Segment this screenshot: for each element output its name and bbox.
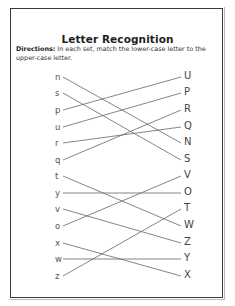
uppercase-letter[interactable]: Z [184, 237, 191, 247]
uppercase-letter[interactable]: O [184, 187, 192, 197]
uppercase-letter[interactable]: R [184, 104, 191, 114]
uppercase-letter[interactable]: X [184, 270, 191, 280]
uppercase-letter[interactable]: P [184, 87, 190, 97]
uppercase-letter[interactable]: W [184, 220, 194, 230]
lowercase-letter[interactable]: s [55, 88, 59, 98]
lowercase-letter[interactable]: o [55, 221, 60, 231]
uppercase-letter[interactable]: Q [184, 121, 192, 131]
lowercase-letter[interactable]: q [55, 155, 60, 165]
match-line[interactable] [63, 77, 181, 110]
lowercase-letter[interactable]: w [55, 254, 62, 264]
uppercase-letter[interactable]: U [184, 71, 191, 81]
lowercase-letter[interactable]: y [55, 188, 60, 198]
uppercase-letter[interactable]: S [184, 154, 190, 164]
match-line[interactable] [63, 243, 181, 276]
lowercase-letter[interactable]: v [55, 204, 60, 214]
lowercase-letter[interactable]: p [55, 105, 60, 115]
lowercase-letter[interactable]: x [55, 238, 60, 248]
uppercase-letter[interactable]: T [184, 203, 190, 213]
match-line[interactable] [63, 93, 181, 160]
lowercase-letter[interactable]: n [55, 72, 60, 82]
uppercase-letter[interactable]: N [184, 137, 191, 147]
uppercase-letter[interactable]: V [184, 170, 191, 180]
uppercase-letter[interactable]: Y [184, 253, 190, 263]
match-line[interactable] [63, 110, 181, 160]
lowercase-letter[interactable]: r [55, 138, 59, 148]
match-lines [0, 0, 235, 306]
match-line[interactable] [63, 93, 181, 127]
lowercase-letter[interactable]: z [55, 271, 59, 281]
match-line[interactable] [63, 209, 181, 243]
match-line[interactable] [63, 209, 181, 276]
lowercase-letter[interactable]: u [55, 122, 60, 132]
lowercase-letter[interactable]: t [55, 171, 58, 181]
